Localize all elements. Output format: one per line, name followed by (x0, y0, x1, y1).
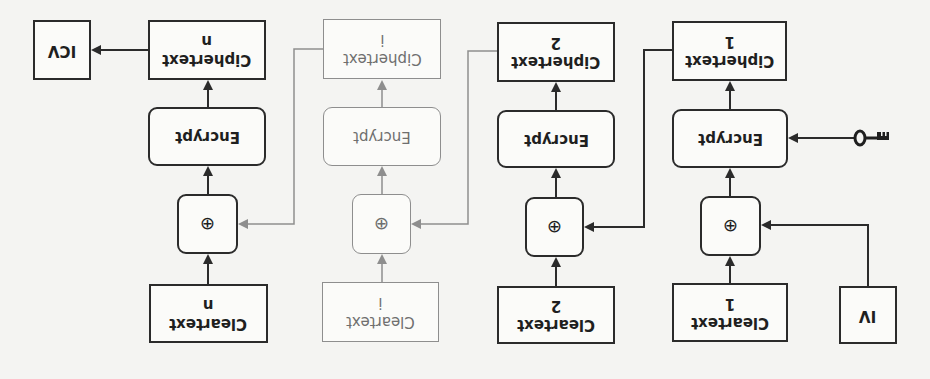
xor-i-box: ⊕ (352, 194, 411, 254)
iv-box: IV (839, 286, 897, 344)
encrypt-1-label: Encrypt (698, 129, 763, 148)
encrypt-n-box: Encrypt (148, 107, 266, 166)
xor-icon: ⊕ (200, 215, 215, 234)
connector-lines (0, 0, 930, 379)
cleartext-2-label: Cleartext 2 (517, 296, 595, 334)
xor-icon: ⊕ (723, 217, 738, 236)
ciphertext-2-label: Ciphertext 2 (511, 33, 600, 71)
ciphertext-2-box: Ciphertext 2 (497, 22, 615, 82)
icv-box: ICV (33, 20, 91, 80)
ciphertext-1-label: Ciphertext 1 (685, 32, 774, 70)
encrypt-1-box: Encrypt (672, 109, 788, 168)
cleartext-1-label: Cleartext 1 (691, 294, 769, 332)
icv-label: ICV (48, 41, 76, 60)
encrypt-n-label: Encrypt (175, 127, 240, 146)
cleartext-2-box: Cleartext 2 (497, 286, 615, 344)
encrypt-i-label: Encrypt (353, 127, 411, 146)
xor-n-box: ⊕ (177, 194, 238, 254)
cleartext-1-box: Cleartext 1 (672, 283, 788, 342)
cleartext-i-label: Cleartext i (346, 293, 415, 331)
ciphertext-1-box: Ciphertext 1 (672, 21, 787, 81)
encrypt-2-label: Encrypt (524, 130, 589, 149)
cleartext-i-box: Cleartext i (322, 282, 439, 342)
xor-icon: ⊕ (374, 215, 389, 234)
xor-2-box: ⊕ (525, 197, 584, 257)
ciphertext-i-box: Ciphertext i (323, 19, 441, 79)
encrypt-i-box: Encrypt (323, 107, 441, 166)
xor-icon: ⊕ (547, 218, 562, 237)
ciphertext-i-label: Ciphertext i (343, 30, 422, 68)
cleartext-n-label: Cleartext n (169, 295, 247, 333)
cleartext-n-box: Cleartext n (149, 284, 268, 343)
iv-label: IV (859, 306, 876, 325)
key-icon (850, 128, 894, 148)
cbc-diagram: ICV Ciphertext n Encrypt ⊕ Cleartext n C… (0, 0, 930, 379)
ciphertext-n-label: Ciphertext n (162, 31, 251, 69)
encrypt-2-box: Encrypt (497, 110, 615, 168)
xor-1-box: ⊕ (700, 196, 761, 256)
ciphertext-n-box: Ciphertext n (148, 20, 266, 80)
